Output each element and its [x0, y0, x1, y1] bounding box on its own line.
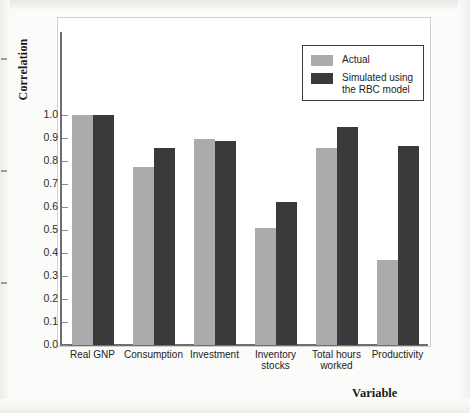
y-axis-tick-label-text: 0.0	[24, 339, 58, 350]
legend-entry: Actual	[311, 54, 370, 66]
x-axis-line	[60, 344, 428, 346]
y-axis-tick	[62, 230, 68, 231]
y-axis-tick-label-text: 0.8	[24, 155, 58, 166]
y-axis-tick-label-text: 0.2	[24, 293, 58, 304]
y-axis-tick	[62, 161, 68, 162]
y-axis-title: Correlation	[16, 25, 31, 115]
chart-figure: 1.00.90.80.70.60.50.40.30.20.10.0 Correl…	[0, 0, 470, 413]
y-axis-tick-label: 0.1	[20, 316, 58, 328]
chart-legend: ActualSimulated using the RBC model	[302, 45, 424, 101]
y-axis-tick-label-text: 0.7	[24, 178, 58, 189]
y-axis-tick	[62, 322, 68, 323]
y-axis-tick-label: 0.2	[20, 293, 58, 305]
y-axis-tick-label: 0.7	[20, 178, 58, 190]
y-axis-tick	[62, 345, 68, 346]
y-axis-tick-label-text: 0.1	[24, 316, 58, 327]
legend-label: Actual	[342, 54, 370, 66]
legend-swatch-simulated	[311, 73, 333, 84]
page-edge-bottom	[0, 399, 470, 413]
y-axis-tick	[62, 184, 68, 185]
y-axis-tick-label: 0.9	[20, 132, 58, 144]
y-axis-tick	[62, 253, 68, 254]
y-axis-tick-label-text: 0.4	[24, 247, 58, 258]
y-axis-tick-label-text: 0.9	[24, 132, 58, 143]
y-axis-tick-label: 0.5	[20, 224, 58, 236]
y-axis-tick	[62, 276, 68, 277]
x-axis-title: Variable	[352, 386, 397, 401]
page-edge-left	[0, 0, 10, 413]
legend-swatch-actual	[311, 55, 333, 66]
page-edge-right	[458, 0, 470, 413]
y-axis-tick	[62, 138, 68, 139]
y-axis-tick-label: 0.4	[20, 247, 58, 259]
legend-entry: Simulated using the RBC model	[311, 72, 413, 95]
y-axis-tick-label-text: 0.5	[24, 224, 58, 235]
y-axis-tick-label-text: 0.6	[24, 201, 58, 212]
x-axis-category-label: Productivity	[362, 350, 434, 361]
page-margin-mark-middle	[1, 170, 7, 172]
y-axis-tick-label: 0.0	[20, 339, 58, 351]
y-axis-tick	[62, 115, 68, 116]
y-axis-tick	[62, 299, 68, 300]
y-axis-tick-label-text: 0.3	[24, 270, 58, 281]
y-axis-tick-label: 0.8	[20, 155, 58, 167]
page-margin-mark-bottom	[1, 282, 7, 284]
y-axis-tick-label: 0.6	[20, 201, 58, 213]
page-edge-top	[0, 0, 470, 9]
y-axis-tick-label: 0.3	[20, 270, 58, 282]
y-axis-tick	[62, 207, 68, 208]
legend-label: Simulated using the RBC model	[342, 72, 413, 95]
page-margin-mark-top	[1, 58, 7, 60]
